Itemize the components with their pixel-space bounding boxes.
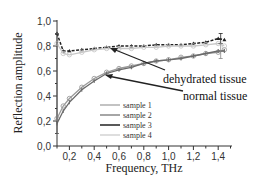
x-tick-label: 0,2 <box>62 151 76 162</box>
y-tick-label: 0,4 <box>37 91 51 102</box>
y-tick-label: 0,8 <box>37 41 51 52</box>
legend: sample 1 sample 2 sample 3 sample 4 <box>100 101 152 140</box>
legend-sample-1: sample 1 <box>123 101 152 110</box>
legend-sample-2: sample 2 <box>123 111 152 120</box>
x-tick-label: 0,4 <box>87 151 101 162</box>
y-tick-label: 1,0 <box>37 16 51 27</box>
chart-canvas: 0,00,20,40,60,81,0 0,20,40,60,81,01,21,4… <box>0 0 265 188</box>
y-tick-label: 0,2 <box>37 116 51 127</box>
y-axis-title: Reflection amplitude <box>11 33 25 134</box>
x-tick-label: 1,4 <box>211 151 225 162</box>
x-axis-title: Frequency, THz <box>106 161 183 175</box>
y-ticks: 0,00,20,40,60,81,0 <box>37 16 57 152</box>
y-tick-label: 0,6 <box>37 66 51 77</box>
annotation-normal-tissue: normal tissue <box>183 89 247 103</box>
legend-sample-3: sample 3 <box>123 121 152 130</box>
legend-sample-4: sample 4 <box>123 131 152 140</box>
annotation-dehydrated-tissue: dehydrated tissue <box>163 72 247 86</box>
x-ticks: 0,20,40,60,81,01,21,4 <box>57 146 231 162</box>
y-tick-label: 0,0 <box>37 141 51 152</box>
x-tick-label: 1,2 <box>186 151 200 162</box>
